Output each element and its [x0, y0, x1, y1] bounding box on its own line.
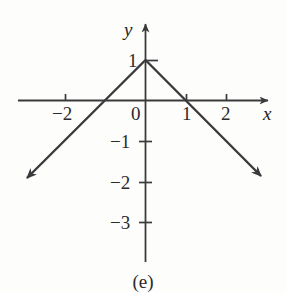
x-tick-label--2: −2: [52, 104, 72, 123]
x-tick-label-1: 1: [182, 104, 192, 123]
y-axis-label: y: [124, 20, 132, 39]
y-tick-label--3: −3: [110, 213, 130, 232]
y-tick-label--1: −1: [110, 132, 130, 151]
x-axis-label: x: [263, 104, 271, 123]
graph-canvas: [0, 0, 286, 292]
x-tick-label-2: 2: [221, 104, 231, 123]
y-tick-label--2: −2: [110, 173, 130, 192]
figure-panel: y x 0 −2 1 2 1 −1 −2 −3 (e): [0, 0, 286, 292]
origin-label: 0: [131, 104, 141, 123]
y-tick-label-1: 1: [128, 51, 138, 70]
curve-right-branch: [146, 60, 262, 176]
panel-label: (e): [0, 272, 286, 291]
curve-left-branch: [27, 60, 146, 178]
